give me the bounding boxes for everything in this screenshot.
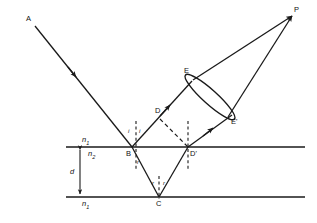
medium-label-n1-above: n1 [82,136,89,146]
wavefront-dashed-D-to-Dprime [160,119,188,147]
incident-ray-A-to-B [35,26,132,147]
medium-subscript-below: 1 [86,204,89,210]
point-label-E-prime: E' [231,118,237,126]
point-label-P: P [294,6,299,14]
angle-label-reflection-at-C: r [163,180,165,186]
reflected-ray-arrowhead [160,105,170,116]
medium-label-n2-film: n2 [88,150,95,160]
medium-label-n1-below: n1 [82,200,89,210]
refracted-ray-B-to-C [132,147,159,197]
angle-label-refraction-at-B: r [137,159,139,165]
angle-label-incidence-at-C: r [152,180,154,186]
lens-ray-E-to-P [193,16,292,80]
angle-label-incidence-at-B: i [128,128,129,134]
medium-subscript-above: 1 [86,140,89,146]
point-label-B: B [126,150,131,158]
incident-ray-arrowhead [68,67,76,77]
emergent-ray-arrowhead [203,128,213,136]
point-label-E: E [184,67,189,75]
figure-canvas: A B C D D' E E' P i i r r r n1 n2 n1 d [0,0,317,223]
angle-label-reflection-at-B: i [139,128,140,134]
lens-ray-Eprime-to-P [228,16,292,117]
internal-ray-C-to-Dprime [159,147,188,197]
medium-subscript-film: 2 [92,154,95,160]
point-label-C: C [156,200,161,208]
point-label-D: D [155,107,160,115]
point-label-D-prime: D' [190,150,197,158]
point-label-A: A [26,15,31,23]
thickness-label-d: d [70,168,74,176]
